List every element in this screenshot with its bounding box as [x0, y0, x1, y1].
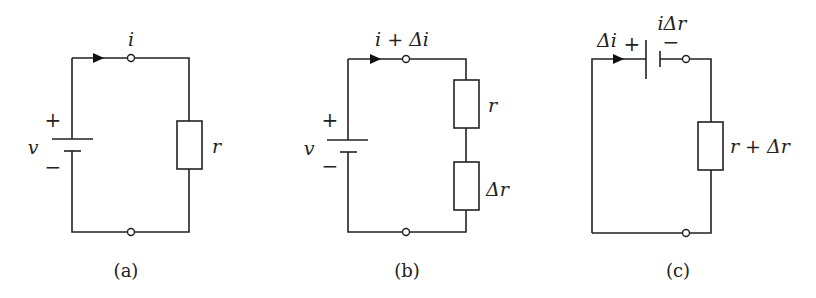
current-arrow-icon — [93, 53, 104, 63]
terminal-top — [403, 56, 410, 63]
panel-b: i + Δi + − v r Δr (b) — [304, 28, 511, 281]
resistor-label: r — [212, 135, 223, 157]
terminal-bottom — [128, 229, 135, 236]
wire-loop-a — [72, 58, 189, 232]
resistor-delta-r — [454, 162, 479, 210]
caption: (c) — [666, 260, 690, 281]
resistor-r-plus-delta-r — [698, 122, 723, 170]
resistor-label-delta-r: Δr — [485, 178, 511, 200]
terminal-bottom — [403, 229, 410, 236]
voltage-label: v — [28, 136, 39, 158]
plus-sign: + — [624, 32, 641, 56]
minus-sign: − — [45, 155, 62, 179]
terminal-bottom — [683, 230, 690, 237]
current-label: Δi — [596, 29, 617, 51]
wire-loop-c — [592, 59, 711, 233]
caption: (b) — [394, 260, 420, 281]
terminal-top — [683, 56, 690, 63]
plus-sign: + — [45, 108, 62, 132]
circuit-figure: i + − v r (a) i + Δi + − v r Δr (b) Δi +… — [0, 0, 816, 298]
wire-loop-b — [348, 59, 466, 232]
terminal-top — [128, 55, 135, 62]
current-arrow-icon — [613, 54, 624, 64]
panel-a: i + − v r (a) — [28, 28, 223, 281]
voltage-label: v — [304, 137, 315, 159]
resistor-r — [177, 121, 202, 169]
caption: (a) — [114, 260, 139, 281]
source-label: iΔr — [658, 12, 689, 34]
resistor-label: r + Δr — [730, 135, 792, 157]
current-label: i + Δi — [375, 28, 429, 50]
current-label: i — [128, 28, 134, 50]
resistor-r — [454, 80, 479, 128]
plus-sign: + — [322, 108, 339, 132]
minus-sign: − — [322, 154, 339, 178]
current-arrow-icon — [370, 54, 381, 64]
resistor-label-r: r — [488, 94, 499, 116]
panel-c: Δi + − iΔr r + Δr (c) — [592, 12, 792, 281]
